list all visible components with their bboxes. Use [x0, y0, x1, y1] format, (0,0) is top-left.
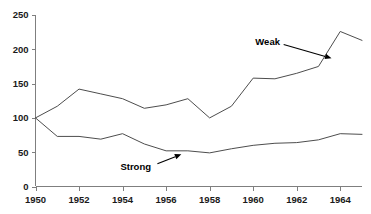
- x-tick-label: 1950: [25, 194, 46, 205]
- annotation-arrow-line-weak: [284, 44, 326, 56]
- x-tick-label: 1954: [112, 194, 134, 205]
- x-tick-label: 1960: [243, 194, 264, 205]
- annotation-arrow-head-strong: [174, 154, 181, 159]
- y-axis: [32, 15, 36, 188]
- chart-canvas: 050100150200250 195019521954195619581960…: [0, 0, 371, 214]
- x-tick-label: 1958: [199, 194, 220, 205]
- y-tick-label: 250: [13, 9, 29, 20]
- series-line-strong: [36, 118, 363, 153]
- series-annotation-label-strong: Strong: [120, 161, 151, 172]
- x-tick-label: 1962: [286, 194, 307, 205]
- series-line-weak: [36, 31, 363, 117]
- y-axis-labels: 050100150200250: [13, 9, 29, 192]
- x-tick-group: [37, 187, 341, 191]
- annotation-arrow-line-strong: [157, 157, 175, 164]
- x-axis: [36, 187, 363, 191]
- x-axis-labels: 19501952195419561958196019621964: [25, 194, 352, 205]
- y-tick-label: 150: [13, 78, 29, 89]
- y-tick-label: 50: [18, 147, 29, 158]
- x-tick-label: 1964: [330, 194, 352, 205]
- y-tick-label: 100: [13, 112, 29, 123]
- y-tick-label: 0: [23, 181, 28, 192]
- x-tick-label: 1956: [156, 194, 177, 205]
- annotation-group: WeakStrong: [120, 36, 331, 173]
- y-tick-group: [32, 16, 36, 188]
- y-tick-label: 200: [13, 44, 29, 55]
- x-tick-label: 1952: [68, 194, 89, 205]
- series-annotation-label-weak: Weak: [255, 36, 280, 47]
- series-group: [36, 31, 363, 152]
- line-chart: 050100150200250 195019521954195619581960…: [0, 0, 371, 214]
